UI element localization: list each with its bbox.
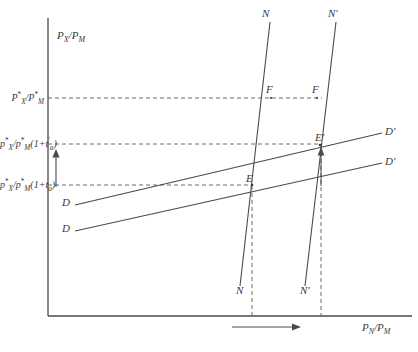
economic-diagram-figure: PX/PM PN/PM P*X/P*M p*X/p*M(1+t′a) p*X/p… [0, 0, 418, 352]
x-axis-label-p2: P [377, 321, 384, 333]
tick-high-paren-close: ) [53, 138, 56, 149]
point-marker-e-prime [319, 144, 322, 147]
point-marker-e [251, 184, 254, 187]
curve-label-d-upper-left: D [62, 197, 70, 208]
tick-label-world-price: P*X/P*M [0, 92, 44, 107]
point-marker-f [270, 97, 272, 99]
tick-world-sub2: M [38, 98, 44, 106]
x-axis-label-sub2: M [384, 327, 391, 336]
point-label-e: E [246, 173, 253, 184]
diagram-canvas [0, 0, 418, 352]
x-axis-label-p1: P [362, 321, 369, 333]
supply-curve-n [240, 22, 270, 286]
curve-label-n-top: N [262, 8, 269, 19]
y-axis-label-sub2: M [78, 35, 85, 44]
curve-label-d-upper-right: D' [385, 126, 395, 137]
point-label-f2: F [312, 84, 319, 95]
equilibrium-point-markers [251, 97, 322, 186]
tick-label-tariff-low: p*X/p*M(1+ta) [0, 179, 44, 194]
point-marker-f2 [316, 97, 318, 99]
point-label-e-prime: E' [315, 132, 324, 143]
tick-label-tariff-high: p*X/p*M(1+t′a) [0, 138, 44, 153]
demand-curve-d-lower [75, 163, 382, 231]
y-axis-label-p1: P [57, 29, 64, 41]
tick-high-paren-open: (1+ [30, 138, 45, 149]
dashed-guides-horizontal [48, 98, 322, 185]
curve-label-d-lower-right: D' [385, 156, 395, 167]
dashed-guides-vertical [252, 145, 321, 316]
point-label-f: F [266, 84, 273, 95]
curve-label-n-prime-bottom: N' [300, 285, 310, 296]
x-axis-label: PN/PM [362, 322, 390, 336]
curve-label-d-lower-left: D [62, 223, 70, 234]
curve-label-n-prime-top: N' [328, 8, 338, 19]
axes-group [48, 18, 412, 316]
curve-label-n-bottom: N [236, 285, 243, 296]
tick-low-paren-open: (1+ [30, 179, 45, 190]
y-axis-label: PX/PM [57, 30, 85, 44]
tick-low-paren-close: ) [52, 179, 55, 190]
quantity-shift-arrow [232, 323, 301, 330]
